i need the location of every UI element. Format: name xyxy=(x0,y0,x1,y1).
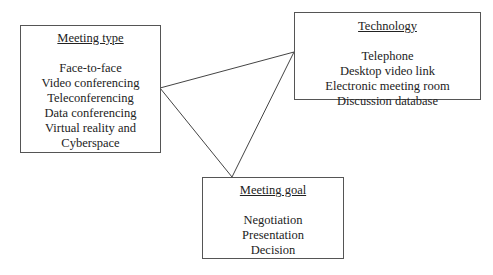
meeting-goal-title: Meeting goal xyxy=(203,183,343,198)
meeting-type-item: Virtual reality and xyxy=(21,121,160,136)
technology-item: Discussion database xyxy=(295,94,480,109)
meeting-type-item: Face-to-face xyxy=(21,61,160,76)
technology-item: Electronic meeting room xyxy=(295,79,480,94)
edge-technology-goal xyxy=(232,52,294,177)
meeting-type-item: Teleconferencing xyxy=(21,91,160,106)
edge-type-goal xyxy=(160,88,232,177)
meeting-goal-item: Decision xyxy=(203,243,343,258)
meeting-type-item: Data conferencing xyxy=(21,106,160,121)
meeting-goal-item: Presentation xyxy=(203,228,343,243)
meeting-type-box: Meeting type Face-to-face Video conferen… xyxy=(20,25,161,153)
meeting-type-item: Video conferencing xyxy=(21,76,160,91)
meeting-goal-box: Meeting goal Negotiation Presentation De… xyxy=(202,177,344,259)
technology-title: Technology xyxy=(295,19,480,34)
technology-box: Technology Telephone Desktop video link … xyxy=(294,12,481,100)
meeting-type-item: Cyberspace xyxy=(21,136,160,151)
technology-item: Desktop video link xyxy=(295,64,480,79)
technology-item: Telephone xyxy=(295,49,480,64)
meeting-goal-item: Negotiation xyxy=(203,213,343,228)
edge-type-technology xyxy=(160,52,294,88)
meeting-type-title: Meeting type xyxy=(21,31,160,46)
